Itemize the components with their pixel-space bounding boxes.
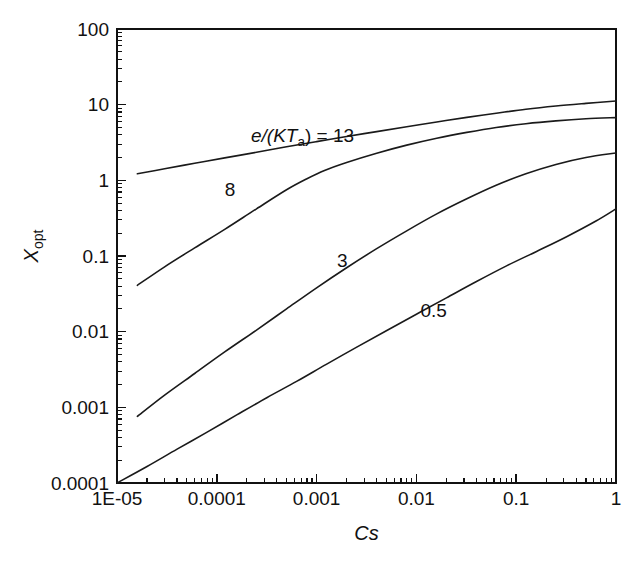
y-tick-label: 10 (88, 94, 109, 115)
x-tick-label: 1 (611, 488, 622, 509)
figure-canvas: 1E-050.00010.0010.010.111001010.10.010.0… (0, 0, 640, 572)
x-tick-label: 0.001 (293, 488, 341, 509)
x-tick-label: 0.1 (503, 488, 529, 509)
y-tick-label: 0.01 (72, 321, 109, 342)
y-tick-label: 100 (77, 19, 109, 40)
x-tick-label: 0.01 (398, 488, 435, 509)
annotation-0.5: 0.5 (421, 300, 447, 321)
annotation-8: 8 (225, 179, 236, 200)
y-tick-label: 0.1 (83, 246, 109, 267)
x-tick-label: 0.0001 (188, 488, 246, 509)
y-tick-label: 0.0001 (51, 473, 109, 494)
chart-plot: 1E-050.00010.0010.010.111001010.10.010.0… (0, 0, 640, 572)
annotation-3: 3 (337, 250, 348, 271)
y-tick-label: 0.001 (61, 397, 109, 418)
x-axis-title: Cs (354, 522, 378, 544)
y-tick-label: 1 (98, 170, 109, 191)
